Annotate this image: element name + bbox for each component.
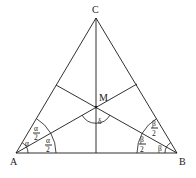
svg-text:β: β	[140, 135, 144, 144]
label-beta: β	[158, 144, 162, 153]
label-c: C	[92, 4, 99, 15]
label-beta-half-lower: β 2	[139, 135, 146, 154]
label-alpha-half-upper: α 2	[33, 124, 40, 142]
label-b: B	[179, 156, 186, 167]
incenter-point	[95, 106, 97, 108]
svg-text:α: α	[34, 124, 38, 133]
svg-text:α: α	[46, 136, 50, 145]
svg-text:β: β	[152, 119, 156, 128]
label-beta-half-upper: β 2	[151, 119, 158, 138]
bisector-a	[16, 84, 137, 153]
label-delta: δ	[98, 117, 102, 126]
svg-text:2: 2	[152, 129, 156, 138]
side-bc	[96, 18, 177, 153]
label-alpha: α	[25, 139, 29, 148]
triangle-diagram: C A B M α α 2 α 2 β β 2 β 2 δ	[0, 0, 196, 178]
svg-text:2: 2	[34, 133, 38, 142]
svg-text:2: 2	[46, 145, 50, 154]
svg-text:2: 2	[140, 145, 144, 154]
label-m: M	[99, 92, 108, 103]
label-alpha-half-lower: α 2	[45, 136, 52, 154]
label-a: A	[10, 156, 18, 167]
